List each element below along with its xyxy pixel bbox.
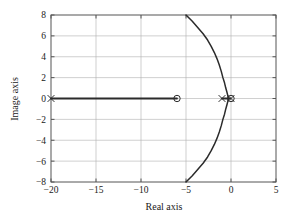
x-tick-label: −5 [181, 185, 191, 195]
y-tick-label: −2 [36, 115, 46, 125]
y-tick-label: 0 [41, 94, 46, 104]
svg-text:Image axis: Image axis [9, 77, 20, 121]
root-locus-chart: −20−15−10−505−8−6−4−202468 Real axis Ima… [0, 0, 298, 219]
x-axis-title: Real axis [146, 201, 183, 212]
y-tick-label: 8 [41, 10, 46, 20]
y-tick-label: −8 [36, 177, 46, 187]
x-tick-label: −10 [134, 185, 149, 195]
y-tick-label: 4 [41, 52, 46, 62]
x-tick-label: −15 [89, 185, 104, 195]
y-tick-label: −4 [36, 136, 46, 146]
x-tick-label: 5 [274, 185, 279, 195]
root-canvas: −20−15−10−505−8−6−4−202468 Real axis Ima… [0, 0, 298, 219]
x-tick-label: 0 [229, 185, 234, 195]
y-tick-label: 2 [41, 73, 46, 83]
y-tick-label: 6 [41, 31, 46, 41]
y-axis-title: Image axis [9, 77, 20, 121]
y-tick-label: −6 [36, 157, 46, 167]
svg-text:Real axis: Real axis [146, 201, 183, 212]
